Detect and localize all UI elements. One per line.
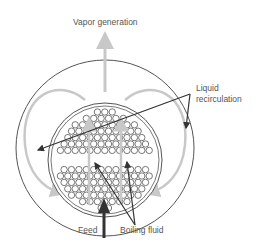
tube <box>139 173 145 179</box>
tube <box>142 166 148 172</box>
tube <box>57 147 63 153</box>
tube <box>113 166 119 172</box>
tube <box>146 147 152 153</box>
tube <box>124 122 130 128</box>
tube <box>91 166 97 172</box>
label-liquid-recirculation-line2: recirculation <box>196 94 242 104</box>
tube <box>102 186 108 192</box>
label-vapor-generation: Vapor generation <box>73 17 138 27</box>
tube <box>61 166 67 172</box>
tube <box>76 179 82 185</box>
tube <box>72 173 78 179</box>
tube <box>128 179 134 185</box>
tube <box>113 179 119 185</box>
tube <box>68 128 74 134</box>
tube <box>109 134 115 140</box>
tube <box>79 134 85 140</box>
tube <box>135 166 141 172</box>
tube <box>94 186 100 192</box>
tube <box>113 128 119 134</box>
tube <box>124 147 130 153</box>
tube <box>139 147 145 153</box>
tube <box>98 128 104 134</box>
tube <box>61 179 67 185</box>
tube <box>94 134 100 140</box>
tube <box>94 173 100 179</box>
tube <box>91 179 97 185</box>
tube <box>91 115 97 121</box>
tube <box>128 141 134 147</box>
tube <box>68 166 74 172</box>
tube <box>124 186 130 192</box>
tube <box>98 115 104 121</box>
tube <box>142 141 148 147</box>
tube <box>79 198 85 204</box>
tube <box>105 128 111 134</box>
tube <box>139 186 145 192</box>
label-liquid-recirculation-line1: Liquid <box>196 83 219 93</box>
tube <box>91 141 97 147</box>
tube <box>113 141 119 147</box>
tube <box>91 192 97 198</box>
tube <box>72 186 78 192</box>
tube <box>65 173 71 179</box>
tube <box>83 115 89 121</box>
tube <box>102 134 108 140</box>
tube <box>105 115 111 121</box>
tube <box>79 186 85 192</box>
reboiler-diagram: Vapor generation Liquid recirculation Fe… <box>0 0 269 250</box>
tube <box>135 141 141 147</box>
tube <box>142 179 148 185</box>
label-feed: Feed <box>78 225 98 235</box>
tube <box>68 192 74 198</box>
tube <box>76 128 82 134</box>
tube <box>105 192 111 198</box>
tube <box>109 198 115 204</box>
tube <box>72 122 78 128</box>
tube <box>139 134 145 140</box>
tube <box>79 173 85 179</box>
label-boiling-fluid: Boiling fluid <box>120 225 164 235</box>
tube <box>105 166 111 172</box>
tube <box>98 179 104 185</box>
tube <box>131 134 137 140</box>
tube <box>102 147 108 153</box>
tube <box>124 198 130 204</box>
tube <box>72 147 78 153</box>
tube <box>76 166 82 172</box>
tube <box>135 192 141 198</box>
tube <box>105 141 111 147</box>
tube <box>98 192 104 198</box>
tube <box>146 173 152 179</box>
tube <box>124 134 130 140</box>
tube <box>131 186 137 192</box>
tube <box>131 173 137 179</box>
tube <box>79 147 85 153</box>
tube <box>94 198 100 204</box>
tube <box>65 147 71 153</box>
tube <box>68 179 74 185</box>
tube <box>109 109 115 115</box>
tube <box>135 128 141 134</box>
tube <box>76 141 82 147</box>
tube <box>94 147 100 153</box>
tube <box>68 141 74 147</box>
tube <box>76 192 82 198</box>
tube <box>57 173 63 179</box>
tube <box>79 122 85 128</box>
tube <box>131 122 137 128</box>
tube <box>109 173 115 179</box>
liquid-recirculation-leader-2 <box>186 94 190 128</box>
tube <box>135 179 141 185</box>
tube <box>65 186 71 192</box>
tube <box>109 147 115 153</box>
tube <box>98 141 104 147</box>
tube <box>94 109 100 115</box>
tube <box>128 128 134 134</box>
tube <box>102 109 108 115</box>
tube <box>131 147 137 153</box>
